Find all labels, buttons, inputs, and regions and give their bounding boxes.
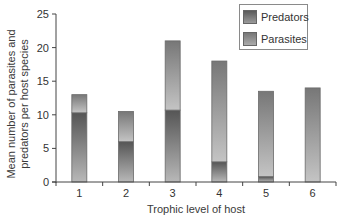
x-axis-title: Trophic level of host — [56, 203, 336, 215]
y-axis-title-line-1: Mean number of parasites and — [5, 29, 18, 179]
predators-swatch — [243, 10, 257, 24]
bar-predators-1 — [72, 113, 87, 182]
y-tick-label: 20 — [37, 42, 49, 54]
bar-predators-4 — [212, 162, 227, 182]
y-tick-label: 5 — [43, 142, 49, 154]
legend-label-parasites: Parasites — [261, 33, 307, 45]
legend-label-predators: Predators — [261, 11, 309, 23]
x-tick-label: 1 — [76, 187, 82, 199]
bar-predators-5 — [259, 177, 274, 182]
y-tick-label: 25 — [37, 8, 49, 20]
bar-parasites-5 — [259, 91, 274, 176]
x-tick-label: 3 — [170, 187, 176, 199]
y-tick-label: 10 — [37, 109, 49, 121]
y-axis-title: Mean number of parasites and predators p… — [5, 29, 33, 179]
bar-parasites-3 — [165, 41, 180, 110]
bars-group — [72, 41, 320, 182]
legend-item-predators: Predators — [243, 9, 309, 24]
bar-predators-2 — [119, 142, 134, 182]
legend: Predators Parasites — [239, 4, 308, 50]
x-tick-label: 6 — [310, 187, 316, 199]
x-tick-label: 2 — [123, 187, 129, 199]
x-tick-label: 5 — [263, 187, 269, 199]
y-axis-title-line-2: predators per host species — [18, 29, 31, 179]
y-tick-label: 15 — [37, 75, 49, 87]
y-tick-label: 0 — [43, 176, 49, 188]
bar-predators-3 — [165, 110, 180, 182]
parasites-swatch — [243, 32, 257, 46]
bar-parasites-4 — [212, 61, 227, 162]
bar-parasites-2 — [119, 111, 134, 141]
x-tick-label: 4 — [216, 187, 222, 199]
bar-parasites-6 — [305, 88, 320, 182]
bar-parasites-1 — [72, 95, 87, 113]
legend-item-parasites: Parasites — [243, 31, 307, 46]
